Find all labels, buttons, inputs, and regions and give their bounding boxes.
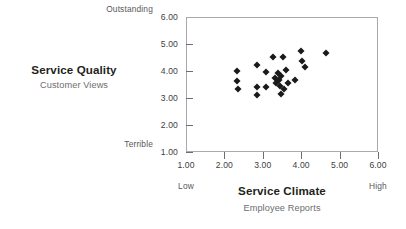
y-axis-tick [186,152,193,153]
x-axis-tick [224,152,225,159]
data-point [235,85,242,92]
scatter-plot-figure: Outstanding Terrible Service Quality Cus… [0,0,406,229]
data-point [283,67,290,74]
y-axis-tick-label: 4.00 [148,66,178,76]
data-point [262,68,269,75]
x-axis-tick-label: 3.00 [243,160,283,170]
x-axis-tick-label: 4.00 [281,160,321,170]
x-axis-tick [340,152,341,159]
data-points-layer [187,18,377,151]
x-axis-subtitle: Employee Reports [186,203,378,213]
data-point [234,77,241,84]
data-point [254,91,261,98]
x-axis-tick [301,152,302,159]
y-axis-anchor-low-label: Terrible [0,139,153,149]
data-point [284,80,291,87]
x-axis-tick [378,152,379,159]
y-axis-anchor-high-label: Outstanding [0,4,153,14]
y-axis-tick-label: 3.00 [148,93,178,103]
y-axis-tick [186,71,193,72]
y-axis-title: Service Quality [0,63,148,76]
data-point [262,84,269,91]
y-axis-tick [186,125,193,126]
y-axis-tick-label: 2.00 [148,120,178,130]
x-axis-title: Service Climate [186,184,378,197]
x-axis-tick [263,152,264,159]
data-point [298,47,305,54]
data-point [322,50,329,57]
y-axis-tick [186,44,193,45]
x-axis-tick-label: 5.00 [320,160,360,170]
data-point [291,77,298,84]
data-point [302,63,309,70]
plot-area [186,17,378,152]
x-axis-tick-label: 2.00 [204,160,244,170]
x-axis-tick-label: 6.00 [358,160,398,170]
y-axis-tick-label: 6.00 [148,12,178,22]
data-point [254,61,261,68]
data-point [254,84,261,91]
y-axis-subtitle: Customer Views [0,80,148,90]
data-point [234,67,241,74]
y-axis-tick-label: 1.00 [148,147,178,157]
y-axis-tick [186,98,193,99]
data-point [279,53,286,60]
y-axis-tick-label: 5.00 [148,39,178,49]
x-axis-tick-label: 1.00 [166,160,206,170]
data-point [270,53,277,60]
